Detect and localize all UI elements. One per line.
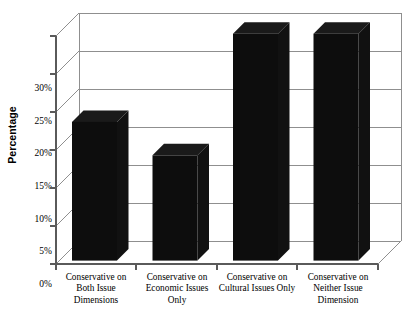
bar-front-1 (153, 155, 198, 260)
bar-group-1[interactable] (153, 144, 210, 261)
plot-area (0, 0, 412, 310)
bar-front-0 (72, 122, 117, 261)
bar-group-0[interactable] (72, 110, 129, 260)
bar-group-3[interactable] (314, 22, 371, 260)
bar-front-2 (233, 34, 278, 261)
bar-side-2 (278, 22, 290, 260)
bar-side-3 (359, 22, 371, 260)
bar-chart: Percentage 30% 25% 20% 15% 10% 5% 0% (0, 0, 412, 310)
bar-front-3 (314, 34, 359, 261)
bar-side-1 (198, 144, 210, 261)
bar-group-2[interactable] (233, 22, 290, 260)
bar-side-0 (117, 110, 129, 260)
